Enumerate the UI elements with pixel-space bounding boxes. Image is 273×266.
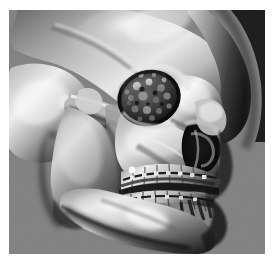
skull-volume-rendering [9,10,265,254]
ct-skull-figure: 3D CT volume rendering Human skull Obliq… [9,10,265,254]
volume-render-grain [9,10,265,254]
